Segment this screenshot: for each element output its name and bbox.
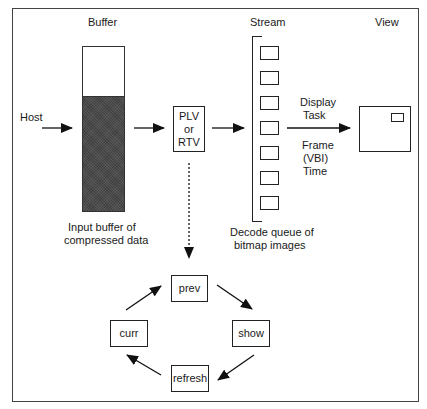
arrow-curr-to-prev <box>126 286 161 310</box>
arrow-prev-to-show <box>217 285 252 309</box>
arrows-layer <box>0 0 427 409</box>
arrow-refresh-to-curr <box>127 355 161 375</box>
arrow-show-to-refresh <box>218 355 254 380</box>
